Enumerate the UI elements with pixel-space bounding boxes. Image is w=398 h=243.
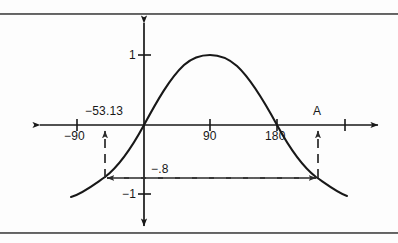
- label-x-180: 180: [265, 130, 286, 142]
- label-angle-neg5313: −53.13: [85, 105, 123, 117]
- label-x-90: 90: [203, 130, 217, 142]
- label-x-neg90: −90: [64, 130, 85, 142]
- label-neg-point-eight: −.8: [151, 163, 169, 175]
- label-y-one: 1: [129, 49, 136, 61]
- label-angle-A: A: [313, 105, 321, 117]
- label-y-neg-one: −1: [122, 188, 136, 200]
- trig-graph-figure: 1 −1 −.8 −90 90 180 −53.13 A: [0, 0, 398, 243]
- graph-canvas: [0, 0, 398, 243]
- sine-curve: [71, 55, 347, 197]
